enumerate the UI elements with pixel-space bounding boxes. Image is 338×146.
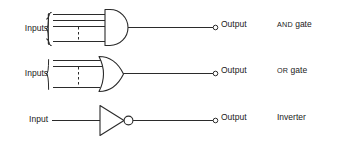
or-gate-name-word: gate	[291, 65, 308, 75]
or-gate-name-caps: OR	[277, 66, 288, 75]
inverter-group	[52, 106, 218, 136]
or-gate-body	[99, 57, 124, 92]
and-gate-name-word: gate	[295, 19, 312, 29]
or-gate-name-label: OR gate	[277, 66, 307, 75]
and-gate-group	[46, 10, 217, 46]
or-gate-input-label: Inputs	[8, 69, 48, 78]
and-gate-output-label: Output	[221, 20, 247, 29]
inverter-output-label: Output	[221, 113, 247, 122]
and-gate-name-label: AND gate	[277, 20, 312, 29]
inverter-input-label: Input	[8, 115, 48, 124]
inverter-body-triangle	[100, 106, 124, 136]
and-gate-body	[105, 10, 128, 46]
or-gate-group	[46, 57, 217, 92]
inverter-output-bubble	[124, 116, 133, 125]
and-gate-name-caps: AND	[277, 20, 293, 29]
logic-gate-diagram: Inputs Output AND gate Inputs Output OR …	[0, 0, 338, 146]
inverter-output-terminal[interactable]	[213, 118, 218, 123]
or-gate-output-label: Output	[221, 66, 247, 75]
or-gate-output-terminal[interactable]	[213, 71, 218, 76]
and-gate-input-label: Inputs	[8, 24, 48, 33]
inverter-name-label: Inverter	[277, 113, 306, 122]
and-gate-output-terminal[interactable]	[213, 25, 218, 30]
